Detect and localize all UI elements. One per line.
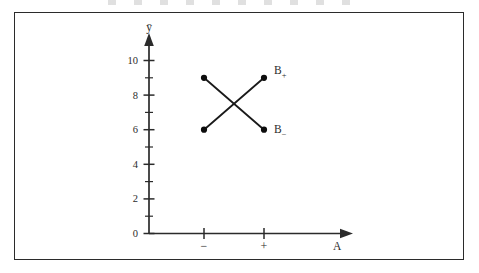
y-axis-tick-labels: 0 2 4 6 8 10 xyxy=(128,55,139,239)
data-point-b-plus-plus-level xyxy=(261,75,267,81)
y-tick-label-6: 6 xyxy=(133,124,138,135)
series-b-minus: B− xyxy=(201,75,287,139)
x-axis-tick-labels: − + xyxy=(201,239,268,253)
y-tick-label-8: 8 xyxy=(133,90,138,101)
y-axis-title-text: ȳ xyxy=(146,21,152,34)
data-point-b-minus-minus-level xyxy=(201,75,207,81)
y-tick-label-10: 10 xyxy=(128,55,139,66)
interaction-plot: ȳ 0 2 4 6 8 10 xyxy=(0,0,479,273)
series-label-b-plus-sub: + xyxy=(282,70,287,80)
series-label-b-minus: B− xyxy=(274,123,287,139)
x-tick-label-minus: − xyxy=(201,239,208,253)
data-point-b-minus-plus-level xyxy=(261,127,267,133)
x-axis-title: A xyxy=(333,240,342,252)
x-axis-arrow-icon xyxy=(340,229,353,239)
y-axis-title: ȳ xyxy=(146,21,152,34)
y-tick-label-4: 4 xyxy=(133,159,139,170)
y-tick-label-2: 2 xyxy=(133,193,138,204)
x-tick-label-plus: + xyxy=(261,239,268,253)
figure-root: ȳ 0 2 4 6 8 10 xyxy=(0,0,479,273)
y-tick-label-0: 0 xyxy=(133,228,138,239)
series-label-b-minus-sub: − xyxy=(282,129,287,139)
series-label-b-plus: B+ xyxy=(274,64,287,80)
data-point-b-plus-minus-level xyxy=(201,127,207,133)
y-axis-arrow-icon xyxy=(144,33,154,46)
x-axis xyxy=(149,229,353,239)
y-axis xyxy=(144,33,154,234)
